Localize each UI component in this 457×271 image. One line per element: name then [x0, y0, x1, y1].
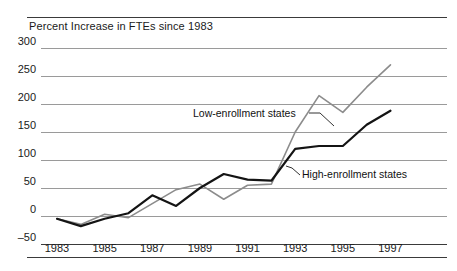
leader-line-high-enrollment [286, 166, 300, 175]
plot-area: 300250200150100500–50 198319851987198919… [0, 0, 457, 271]
y-tick-label-250: 250 [2, 64, 36, 75]
y-tick-label-300: 300 [2, 36, 36, 47]
x-tick-label-1995: 1995 [323, 243, 363, 254]
leader-line-low-enrollment [309, 113, 334, 126]
annotation-low-enrollment-states: Low-enrollment states [193, 108, 296, 119]
x-tick-label-1985: 1985 [85, 243, 125, 254]
y-tick-label-0: 0 [2, 204, 36, 215]
x-tick-label-1983: 1983 [37, 243, 77, 254]
x-tick-label-1993: 1993 [275, 243, 315, 254]
chart-figure: Percent Increase in FTEs since 1983 3002… [0, 0, 457, 271]
x-tick-label-1991: 1991 [228, 243, 268, 254]
y-tick-label-200: 200 [2, 92, 36, 103]
annotation-high-enrollment-states: High-enrollment states [302, 169, 407, 180]
y-tick-label-50: 50 [2, 176, 36, 187]
chart-svg [0, 0, 457, 271]
y-tick-label-100: 100 [2, 148, 36, 159]
x-tick-label-1997: 1997 [370, 243, 410, 254]
y-tick-label--50: –50 [2, 232, 36, 243]
y-tick-label-150: 150 [2, 120, 36, 131]
x-tick-label-1987: 1987 [132, 243, 172, 254]
series-line-low-enrollment-states [57, 65, 390, 225]
x-tick-label-1989: 1989 [180, 243, 220, 254]
